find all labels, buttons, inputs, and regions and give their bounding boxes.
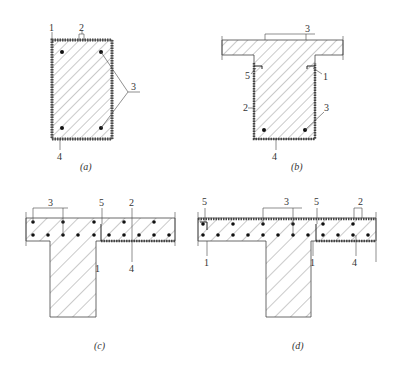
label-2: 2	[79, 22, 84, 33]
diagram-canvas: 1 2 3 4 (a) 3 5 1 2 3 4 (b)	[0, 0, 398, 370]
label-4: 4	[129, 263, 134, 274]
label-3: 3	[48, 197, 53, 208]
rebar	[262, 128, 266, 132]
label-4: 4	[272, 151, 277, 162]
label-1: 1	[49, 22, 54, 33]
caption-a: (a)	[80, 161, 92, 173]
rebar	[60, 126, 64, 130]
label-5-right: 5	[314, 196, 319, 207]
label-1: 1	[95, 263, 100, 274]
section-b-concrete	[222, 40, 343, 139]
label-3: 3	[131, 81, 136, 92]
label-1-right: 1	[310, 257, 315, 268]
rebar	[60, 50, 64, 54]
label-4: 4	[352, 257, 357, 268]
panel-a: 1 2 3 4 (a)	[49, 22, 140, 173]
panel-b: 3 5 1 2 3 4 (b)	[222, 23, 343, 173]
label-1-left: 1	[204, 257, 209, 268]
label-2: 2	[358, 196, 363, 207]
label-3: 3	[284, 196, 289, 207]
label-3-top: 3	[305, 23, 310, 34]
section-d-concrete	[198, 218, 376, 317]
caption-d: (d)	[292, 340, 304, 352]
label-4: 4	[57, 151, 62, 162]
caption-b: (b)	[291, 161, 303, 173]
label-2: 2	[243, 102, 248, 113]
label-5-left: 5	[202, 196, 207, 207]
label-1: 1	[323, 71, 328, 82]
panel-d: 5 3 5 2 1 1 4 (d)	[198, 196, 376, 352]
label-3: 3	[324, 102, 329, 113]
label-5: 5	[245, 70, 250, 81]
panel-c: 3 5 2 1 4 (c)	[26, 197, 175, 352]
label-5: 5	[99, 197, 104, 208]
label-2: 2	[129, 197, 134, 208]
caption-c: (c)	[94, 340, 106, 352]
